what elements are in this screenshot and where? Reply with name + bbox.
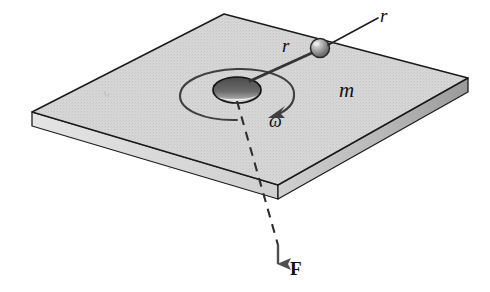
radius-leader-line xyxy=(328,18,378,45)
physics-figure: r r m ω F xyxy=(0,0,490,292)
ball-mass xyxy=(311,39,330,58)
label-angular-velocity: ω xyxy=(269,112,282,130)
label-mass: m xyxy=(339,80,354,101)
label-radius-string: r xyxy=(282,36,289,55)
figure-canvas xyxy=(0,0,490,292)
ball-sphere xyxy=(311,39,330,58)
label-radius-leader: r xyxy=(380,6,387,25)
surface-speckle-2 xyxy=(168,168,171,169)
plate-body xyxy=(32,14,468,199)
label-force: F xyxy=(290,259,302,278)
ball-specular-highlight xyxy=(313,42,319,47)
